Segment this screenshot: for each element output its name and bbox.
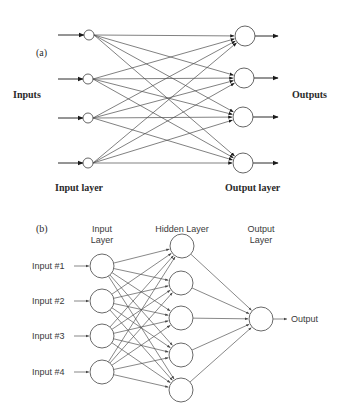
output-node [235, 26, 255, 46]
input-hidden-edge [112, 343, 170, 383]
connection-edge [93, 79, 232, 114]
connection-edge [93, 43, 236, 163]
hidden-output-edge [192, 288, 249, 314]
input-hidden-edge [114, 249, 170, 263]
inputs-label: Inputs [13, 89, 41, 100]
input-layer-node [90, 254, 114, 278]
connection-edge [94, 35, 233, 75]
hidden-layer-node [169, 343, 193, 367]
input-hidden-edge [114, 375, 169, 387]
input-hidden-edge [112, 290, 170, 329]
connection-edge [93, 117, 232, 118]
input-4-label: Input #4 [32, 367, 65, 377]
connection-edge [94, 35, 234, 36]
hidden-layer-node [170, 234, 194, 258]
connection-edge [93, 120, 232, 163]
output-node [233, 107, 253, 127]
hidden-layer-node [169, 271, 193, 295]
diagram-b: (b) Input Layer Hidden Layer Output Laye… [32, 223, 319, 402]
input-hidden-edge [112, 253, 171, 294]
input-layer-title-line1: Input [92, 224, 113, 234]
input-hidden-edge [110, 256, 173, 327]
hidden-output-edge [191, 254, 252, 310]
hidden-layer-title: Hidden Layer [155, 224, 209, 234]
output-node [233, 153, 253, 173]
input-3-label: Input #3 [32, 331, 65, 341]
diagram-a-connections [93, 35, 236, 163]
input-layer-node [90, 360, 114, 384]
hidden-layer-node [169, 306, 193, 330]
input-hidden-edge [110, 293, 172, 363]
output-layer-title-line2: Layer [250, 235, 273, 245]
output-label: Output [291, 314, 319, 324]
connection-edge [93, 118, 232, 160]
input-1-label: Input #1 [32, 261, 65, 271]
output-layer-node [249, 307, 273, 331]
panel-label-a: (a) [36, 47, 47, 59]
input-node [84, 30, 94, 40]
diagram-a: (a) Inputs Outputs Input layer Output la… [13, 26, 327, 193]
input-node [83, 158, 93, 168]
output-layer-label: Output layer [225, 182, 281, 193]
input-node [83, 74, 93, 84]
hidden-layer-node [169, 378, 193, 402]
connection-edge [93, 39, 234, 79]
hidden-output-edge [190, 328, 251, 382]
input-node [83, 113, 93, 123]
input-hidden-edge [114, 358, 169, 370]
input-2-label: Input #2 [32, 296, 65, 306]
connection-edge [93, 78, 233, 79]
outputs-label: Outputs [292, 89, 327, 100]
connection-edge [94, 35, 233, 112]
connection-edge [93, 79, 233, 158]
hidden-output-edge [193, 318, 248, 319]
output-layer-title-line1: Output [247, 224, 275, 234]
panel-label-b: (b) [36, 223, 48, 235]
output-node [234, 68, 254, 88]
input-layer-node [90, 324, 114, 348]
input-layer-label: Input layer [55, 182, 104, 193]
input-layer-title-line2: Layer [91, 235, 114, 245]
neural-network-figure: (a) Inputs Outputs Input layer Output la… [0, 0, 342, 420]
input-layer-node [90, 289, 114, 313]
connection-edge [93, 81, 233, 118]
